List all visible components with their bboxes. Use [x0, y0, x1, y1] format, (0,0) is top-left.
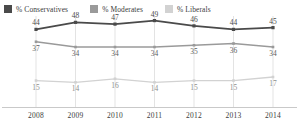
data-label-conservatives-2014: 45	[269, 18, 277, 26]
data-label-moderates-2010: 34	[111, 50, 119, 58]
data-point-marker	[35, 40, 38, 43]
data-point-marker	[193, 44, 196, 47]
data-label-moderates-2011: 34	[151, 50, 159, 58]
data-label-liberals-2011: 14	[151, 85, 159, 93]
data-point-marker	[34, 28, 37, 31]
legend-label-conservatives: % Conservatives	[16, 5, 68, 14]
data-point-marker	[272, 46, 275, 49]
data-label-conservatives-2008: 44	[32, 19, 40, 27]
data-point-marker	[153, 81, 156, 84]
x-tick-label-2010: 2010	[107, 111, 123, 121]
data-label-moderates-2014: 34	[269, 50, 277, 58]
x-tick-label-2013: 2013	[226, 111, 242, 121]
data-label-conservatives-2011: 49	[151, 11, 159, 19]
x-axis-line	[2, 107, 297, 108]
data-point-marker	[153, 46, 156, 49]
x-tick-label-2012: 2012	[186, 111, 202, 121]
data-label-conservatives-2009: 48	[72, 12, 80, 20]
data-point-marker	[232, 79, 235, 82]
legend-swatch-moderates	[90, 5, 98, 13]
data-label-liberals-2013: 15	[230, 84, 238, 92]
data-point-marker	[114, 77, 117, 80]
legend-label-moderates: % Moderates	[102, 5, 143, 14]
x-tick-label-2014: 2014	[265, 111, 281, 121]
legend-item-liberals[interactable]: % Liberals	[165, 5, 211, 14]
data-point-marker	[35, 79, 38, 82]
data-point-marker	[113, 23, 116, 26]
legend-swatch-conservatives	[4, 5, 12, 13]
data-point-marker	[193, 79, 196, 82]
data-label-conservatives-2012: 46	[190, 16, 198, 24]
x-tick-label-2008: 2008	[28, 111, 44, 121]
x-axis-tick-labels: 2008200920102011201220132014	[0, 111, 299, 125]
data-point-marker	[232, 28, 235, 31]
data-label-liberals-2009: 14	[72, 85, 80, 93]
data-label-moderates-2013: 36	[230, 47, 238, 55]
data-point-marker	[153, 19, 156, 22]
data-label-moderates-2009: 34	[72, 50, 80, 58]
data-label-moderates-2008: 37	[32, 45, 40, 53]
data-label-moderates-2012: 35	[190, 48, 198, 56]
data-point-marker	[74, 81, 77, 84]
data-point-marker	[232, 42, 235, 45]
data-label-liberals-2010: 16	[111, 82, 119, 90]
data-label-liberals-2008: 15	[32, 84, 40, 92]
data-point-marker	[271, 26, 274, 29]
plot-svg	[0, 16, 299, 108]
data-label-liberals-2014: 17	[269, 80, 277, 88]
x-tick-label-2009: 2009	[68, 111, 84, 121]
chart-legend: % Conservatives % Moderates % Liberals	[4, 2, 295, 16]
data-label-conservatives-2010: 47	[111, 14, 119, 22]
legend-swatch-liberals	[165, 5, 173, 13]
data-label-liberals-2012: 15	[190, 84, 198, 92]
x-tick-label-2011: 2011	[147, 111, 163, 121]
data-point-marker	[74, 21, 77, 24]
legend-item-conservatives[interactable]: % Conservatives	[4, 5, 68, 14]
data-point-marker	[114, 46, 117, 49]
data-point-marker	[272, 76, 275, 79]
data-point-marker	[192, 24, 195, 27]
data-label-conservatives-2013: 44	[230, 19, 238, 27]
data-point-marker	[74, 46, 77, 49]
plot-area	[0, 16, 299, 108]
line-chart: % Conservatives % Moderates % Liberals 4…	[0, 0, 299, 127]
legend-label-liberals: % Liberals	[177, 5, 211, 14]
